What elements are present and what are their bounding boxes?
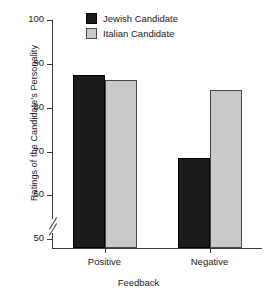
y-tick-label-90: 90 — [33, 57, 44, 68]
x-tick-negative — [210, 248, 211, 253]
y-tick-90: 90 — [47, 64, 52, 65]
y-tick-80: 80 — [47, 108, 52, 109]
x-tick-positive — [105, 248, 106, 253]
bar-negative-jewish — [178, 158, 210, 248]
bar-chart-figure: Ratings of the Candidate's Personality J… — [0, 0, 277, 297]
y-tick-label-100: 100 — [28, 13, 44, 24]
y-tick-label-50: 50 — [33, 232, 44, 243]
y-tick-100: 100 — [47, 20, 52, 21]
y-tick-label-60: 60 — [33, 188, 44, 199]
plot-area: 5060708090100 PositiveNegative — [52, 20, 262, 248]
x-axis-line — [52, 248, 262, 249]
y-tick-60: 60 — [47, 195, 52, 196]
x-tick-label-positive: Positive — [88, 256, 121, 267]
axis-break-mask — [51, 219, 54, 233]
y-tick-label-70: 70 — [33, 145, 44, 156]
y-axis-title: Ratings of the Candidate's Personality — [29, 13, 39, 233]
y-tick-label-80: 80 — [33, 101, 44, 112]
y-tick-70: 70 — [47, 152, 52, 153]
y-tick-50: 50 — [47, 239, 52, 240]
y-axis-line — [52, 20, 53, 248]
x-axis-title: Feedback — [0, 277, 277, 288]
bar-positive-jewish — [73, 75, 105, 248]
bar-positive-italian — [105, 80, 137, 248]
x-tick-label-negative: Negative — [191, 256, 229, 267]
bar-negative-italian — [210, 90, 242, 248]
